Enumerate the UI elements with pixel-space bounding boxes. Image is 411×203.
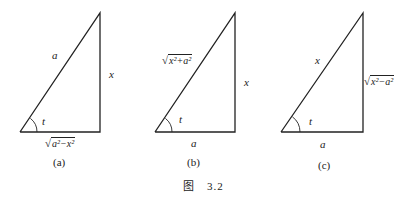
angle-label-c: t <box>309 116 312 127</box>
vertical-label-a: x <box>109 69 114 80</box>
radicand: x²−a² <box>370 75 394 87</box>
angle-label-b: t <box>179 114 182 125</box>
vertical-label-c: √x²−a² <box>364 76 394 87</box>
vertical-label-b: x <box>244 77 249 88</box>
triangle-c <box>281 13 363 132</box>
hypotenuse-label-b: √x²+a² <box>162 55 192 66</box>
radicand: a²−x² <box>51 137 75 149</box>
base-label-a: √a²−x² <box>45 138 75 149</box>
base-label-b: a <box>191 138 197 149</box>
figure-caption: 图 3.2 <box>183 181 224 192</box>
triangle-a <box>20 13 100 132</box>
radicand: x²+a² <box>168 54 192 66</box>
hypotenuse-label-c: x <box>315 55 320 66</box>
panel-caption-b: (b) <box>187 157 200 168</box>
triangles-drawing <box>0 0 411 203</box>
panel-caption-a: (a) <box>53 157 65 168</box>
angle-label-a: t <box>42 116 45 127</box>
panel-caption-c: (c) <box>318 160 330 171</box>
hypotenuse-label-a: a <box>52 50 58 61</box>
triangle-b <box>155 13 235 132</box>
base-label-c: a <box>320 139 326 150</box>
